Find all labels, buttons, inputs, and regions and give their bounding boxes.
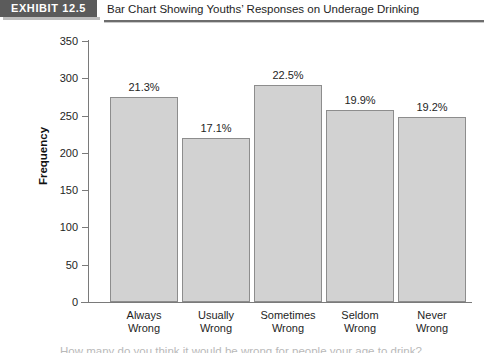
bar [398,117,466,302]
bar-value-label: 19.9% [326,95,394,106]
y-axis-tick-label-text: 350 [52,36,78,47]
x-axis-category-label: UsuallyWrong [182,309,250,334]
y-axis-tick-label: 100 [50,222,78,233]
y-axis-tick-label-text: 250 [52,111,78,122]
x-axis-category-label-line: Wrong [326,322,394,335]
x-axis-category-label: AlwaysWrong [110,309,178,334]
y-axis-tick-label: 50 [50,260,78,271]
x-axis-category-label: SeldomWrong [326,309,394,334]
bar-chart: Frequency 350300250200150100500 21.3%17.… [0,0,484,353]
y-axis-tick [82,41,88,42]
y-axis-tick [82,302,88,303]
x-axis-category-label-line: Wrong [254,322,322,335]
x-axis-category-label-line: Usually [182,309,250,322]
y-axis-tick-label-text: 0 [52,297,78,308]
x-axis-category-label: NeverWrong [398,309,466,334]
y-axis-tick-label: 350 [50,36,78,47]
bar-value-label: 17.1% [182,123,250,134]
y-axis-tick-label: 300 [50,73,78,84]
x-axis-category-label-line: Wrong [182,322,250,335]
clipped-caption: How many do you think it would be wrong … [60,345,484,353]
y-axis-tick-label: 150 [50,185,78,196]
y-axis-tick-label: 200 [50,148,78,159]
y-axis-tick-label-text: 300 [52,73,78,84]
bar [182,138,250,302]
y-axis-tick-label-text: 150 [52,185,78,196]
y-axis-tick [82,265,88,266]
x-axis-category-label-line: Never [398,309,466,322]
y-axis-tick [82,190,88,191]
x-axis-category-label-line: Always [110,309,178,322]
x-axis-category-label-line: Sometimes [254,309,322,322]
x-axis-category-label-line: Wrong [110,322,178,335]
y-axis-tick-label: 250 [50,111,78,122]
x-axis-category-label: SometimesWrong [254,309,322,334]
x-axis-line [81,302,472,303]
bar-value-label: 21.3% [110,82,178,93]
y-axis-tick [82,116,88,117]
y-axis-title: Frequency [37,106,49,206]
x-axis-category-label-line: Seldom [326,309,394,322]
y-axis-tick [82,78,88,79]
bar-value-label: 19.2% [398,102,466,113]
y-axis-tick [82,227,88,228]
bar-value-label: 22.5% [254,70,322,81]
bar [110,97,178,302]
y-axis-tick [82,153,88,154]
y-axis-tick-label-text: 200 [52,148,78,159]
y-axis-line [88,40,89,303]
bar [326,110,394,302]
bar [254,85,322,302]
x-axis-category-label-line: Wrong [398,322,466,335]
y-axis-tick-label-text: 50 [52,260,78,271]
y-axis-tick-label: 0 [50,297,78,308]
y-axis-tick-label-text: 100 [52,222,78,233]
